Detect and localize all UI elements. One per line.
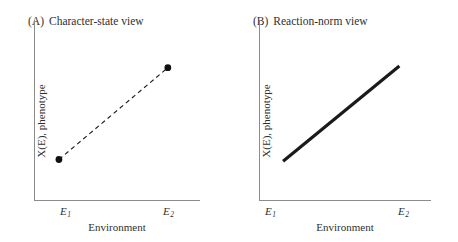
panel-a-x-axis-label: Environment [34,221,200,233]
panel-b-tick-e1-subscript: 1 [272,210,276,219]
panel-reaction-norm: (B)Reaction-norm view X(E), phenotype E1… [229,0,458,242]
panel-b-plot-area [259,20,431,201]
panel-b-tick-e2-subscript: 2 [405,210,409,219]
panel-a-tick-e2-symbol: E [163,205,170,217]
panel-a-tick-e1-subscript: 1 [67,210,71,219]
character-state-marker [56,156,63,163]
character-state-marker [164,64,171,71]
panel-a-series-svg [35,20,200,200]
panel-character-state: (A)Character-state view X(E), phenotype … [0,0,229,242]
panel-a-tick-e1-symbol: E [60,205,67,217]
reaction-norm-solid-line [283,66,399,161]
panel-b-tick-e1: E1 [265,205,275,217]
panel-b-x-axis-label: Environment [259,221,431,233]
character-state-dashed-line [59,68,168,160]
panel-b-tick-e1-symbol: E [265,205,272,217]
panel-a-tick-e2: E2 [163,205,173,217]
panel-b-tick-e2-symbol: E [398,205,405,217]
panel-b-series-svg [260,20,431,200]
panel-a-tick-e1: E1 [60,205,70,217]
panel-a-tick-e2-subscript: 2 [170,210,174,219]
panel-b-tick-e2: E2 [398,205,408,217]
panel-a-plot-area [34,20,200,201]
figure-container: (A)Character-state view X(E), phenotype … [0,0,458,242]
